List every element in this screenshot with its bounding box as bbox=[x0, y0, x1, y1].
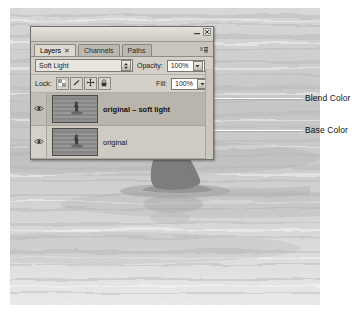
blend-opacity-row: Soft Light Opacity: 100% bbox=[31, 57, 213, 75]
lock-transparent-pixels-button[interactable] bbox=[56, 77, 69, 90]
blend-mode-select[interactable]: Soft Light bbox=[35, 59, 133, 72]
lock-all-button[interactable] bbox=[98, 77, 111, 90]
opacity-value: 100% bbox=[171, 62, 191, 69]
panel-titlebar bbox=[31, 27, 213, 42]
tab-layers-label: Layers bbox=[40, 45, 61, 56]
lock-fill-row: Lock: bbox=[31, 75, 213, 93]
leader-line-base-color bbox=[208, 130, 303, 131]
lock-buttons bbox=[56, 77, 111, 90]
layer-visibility-toggle[interactable] bbox=[31, 93, 47, 125]
opacity-field[interactable]: 100% bbox=[167, 60, 205, 72]
panel-scrollbar[interactable] bbox=[205, 69, 213, 159]
layer-thumbnail-image bbox=[53, 129, 97, 155]
move-cross-icon bbox=[86, 78, 95, 89]
tab-channels-label: Channels bbox=[84, 45, 114, 56]
layer-thumbnail-image bbox=[53, 96, 97, 122]
tab-channels[interactable]: Channels bbox=[78, 44, 120, 56]
layer-row[interactable]: original bbox=[31, 126, 213, 159]
annotation-base-color: Base Color bbox=[305, 125, 348, 135]
panel-menu-icon[interactable] bbox=[200, 47, 209, 54]
fill-label: Fill: bbox=[156, 80, 167, 87]
layers-panel[interactable]: Layers ✕ Channels Paths Soft Light bbox=[30, 26, 214, 160]
lock-label: Lock: bbox=[35, 80, 52, 87]
tab-layers[interactable]: Layers ✕ bbox=[34, 44, 76, 56]
opacity-label: Opacity: bbox=[137, 62, 163, 69]
blend-mode-value: Soft Light bbox=[39, 62, 69, 69]
tab-paths[interactable]: Paths bbox=[122, 44, 152, 56]
layer-thumbnail[interactable] bbox=[52, 128, 98, 156]
panel-tabstrip[interactable]: Layers ✕ Channels Paths bbox=[31, 42, 213, 57]
annotation-blend-color: Blend Color bbox=[305, 93, 351, 103]
lock-position-button[interactable] bbox=[84, 77, 97, 90]
layer-name: original – soft light bbox=[103, 105, 170, 114]
tab-close-icon[interactable]: ✕ bbox=[64, 45, 70, 56]
fill-field[interactable]: 100% bbox=[171, 78, 209, 90]
eye-icon bbox=[34, 138, 44, 147]
opacity-chevron-down-icon[interactable] bbox=[193, 61, 203, 71]
tab-paths-label: Paths bbox=[128, 45, 146, 56]
eye-icon bbox=[34, 105, 44, 114]
close-icon[interactable] bbox=[203, 28, 211, 36]
leader-line-blend-color bbox=[208, 98, 303, 99]
minimize-icon[interactable] bbox=[193, 28, 201, 36]
fill-value: 100% bbox=[175, 80, 195, 87]
layer-name: original bbox=[103, 138, 127, 147]
window-controls bbox=[193, 28, 211, 36]
layer-row[interactable]: original – soft light bbox=[31, 93, 213, 126]
brush-icon bbox=[72, 79, 80, 89]
layer-visibility-toggle[interactable] bbox=[31, 126, 47, 158]
lock-image-pixels-button[interactable] bbox=[70, 77, 83, 90]
layer-thumbnail[interactable] bbox=[52, 95, 98, 123]
checkerboard-icon bbox=[58, 79, 66, 89]
padlock-icon bbox=[100, 79, 108, 89]
layer-list[interactable]: original – soft light bbox=[31, 93, 213, 159]
chevron-updown-icon[interactable] bbox=[121, 60, 131, 71]
